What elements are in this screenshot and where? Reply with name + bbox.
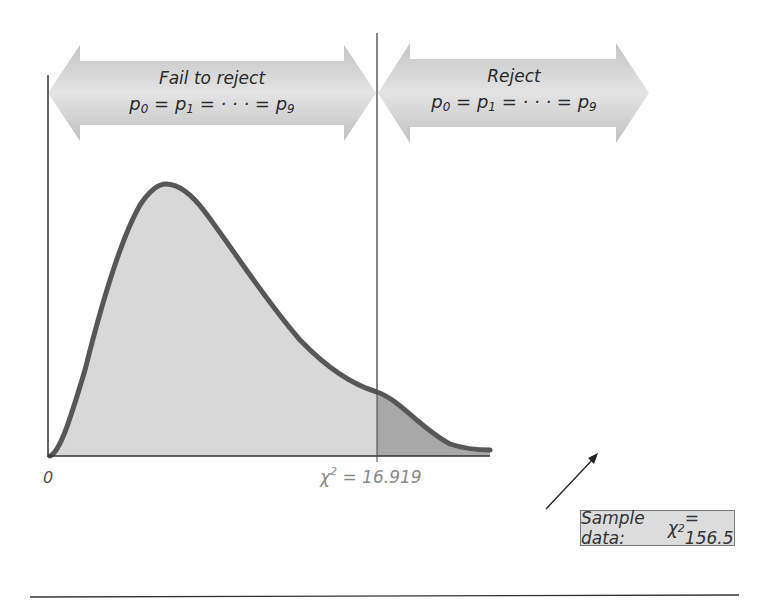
sample-data-label: Sample data: (581, 508, 662, 548)
sample-pointer-line (546, 458, 594, 509)
sample-chi-value: = 156.5 (685, 508, 734, 548)
reject-label: Reject (487, 66, 542, 86)
sample-chi-superscript: 2 (678, 522, 685, 535)
fail-to-reject-arrow: Fail to reject p0 = p1 = · · · = p9 (48, 45, 376, 141)
fail-to-reject-label: Fail to reject (159, 68, 266, 88)
reject-arrow: Reject p0 = p1 = · · · = p9 (378, 43, 649, 143)
sample-chi-symbol: χ (668, 518, 678, 538)
bottom-rule (30, 595, 739, 597)
origin-label: 0 (43, 468, 53, 487)
fail-to-reject-hypothesis: p0 = p1 = · · · = p9 (128, 93, 294, 116)
reject-hypothesis: p0 = p1 = · · · = p9 (430, 91, 596, 114)
critical-value-label: χ2 = 16.919 (319, 465, 422, 487)
sample-data-box: Sample data: χ2 = 156.5 (580, 510, 735, 546)
